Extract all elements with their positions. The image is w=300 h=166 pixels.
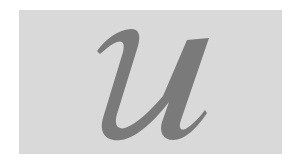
letter-tile: u — [19, 10, 282, 154]
italic-letter-u-glyph: u — [19, 10, 282, 154]
